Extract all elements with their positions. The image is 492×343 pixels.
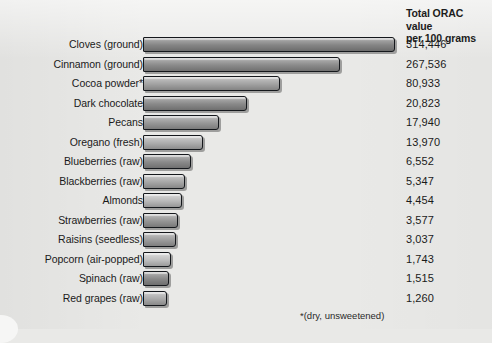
category-label: Pecans <box>108 114 143 131</box>
chart-row: Blackberries (raw)5,347 <box>0 173 492 190</box>
category-label: Cinnamon (ground) <box>53 56 143 73</box>
bar <box>143 232 176 247</box>
chart-row: Oregano (fresh)13,970 <box>0 134 492 151</box>
bar <box>143 252 171 267</box>
bar <box>143 76 280 91</box>
value-label: 1,260 <box>406 290 434 307</box>
bar-container <box>143 135 203 150</box>
bar-container <box>143 291 167 306</box>
value-label: 17,940 <box>406 114 440 131</box>
value-label: 314,446 <box>406 36 446 53</box>
bar-container <box>143 271 169 286</box>
chart-row: Blueberries (raw)6,552 <box>0 153 492 170</box>
bar-container <box>143 232 176 247</box>
value-label: 5,347 <box>406 173 434 190</box>
bar <box>143 291 167 306</box>
bar <box>143 193 182 208</box>
chart-row: Strawberries (raw)3,577 <box>0 212 492 229</box>
category-label: Blueberries (raw) <box>64 153 143 170</box>
bar <box>143 96 247 111</box>
bar <box>143 271 169 286</box>
category-label: Dark chocolate <box>74 95 143 112</box>
chart-row: Cocoa powder*80,933 <box>0 75 492 92</box>
bar <box>143 57 340 72</box>
value-label: 1,743 <box>406 251 434 268</box>
value-label: 3,577 <box>406 212 434 229</box>
bar-container <box>143 57 340 72</box>
bar <box>143 213 178 228</box>
chart-row: Cloves (ground)314,446 <box>0 36 492 53</box>
category-label: Cloves (ground) <box>69 36 143 53</box>
category-label: Strawberries (raw) <box>58 212 143 229</box>
bar-container <box>143 193 182 208</box>
chart-row: Dark chocolate20,823 <box>0 95 492 112</box>
footnote: *(dry, unsweetened) <box>300 310 384 321</box>
value-label: 20,823 <box>406 95 440 112</box>
category-label: Raisins (seedless) <box>58 231 143 248</box>
category-label: Oregano (fresh) <box>70 134 143 151</box>
bar <box>143 37 395 52</box>
bar-container <box>143 115 219 130</box>
value-label: 13,970 <box>406 134 440 151</box>
bar-container <box>143 37 395 52</box>
chart-row: Spinach (raw)1,515 <box>0 270 492 287</box>
category-label: Almonds <box>102 192 143 209</box>
bar-container <box>143 174 185 189</box>
bar <box>143 174 185 189</box>
value-label: 267,536 <box>406 56 446 73</box>
bar <box>143 154 191 169</box>
bar-container <box>143 252 171 267</box>
category-label: Red grapes (raw) <box>63 290 143 307</box>
chart-row: Cinnamon (ground)267,536 <box>0 56 492 73</box>
category-label: Spinach (raw) <box>79 270 143 287</box>
bar-container <box>143 213 178 228</box>
value-label: 3,037 <box>406 231 434 248</box>
chart-row: Raisins (seedless)3,037 <box>0 231 492 248</box>
bar <box>143 135 203 150</box>
chart-row: Pecans17,940 <box>0 114 492 131</box>
value-label: 6,552 <box>406 153 434 170</box>
chart-row: Popcorn (air-popped)1,743 <box>0 251 492 268</box>
value-label: 80,933 <box>406 75 440 92</box>
chart-row: Red grapes (raw)1,260 <box>0 290 492 307</box>
bar-container <box>143 96 247 111</box>
value-label: 1,515 <box>406 270 434 287</box>
chart-row: Almonds4,454 <box>0 192 492 209</box>
category-label: Cocoa powder* <box>72 75 143 92</box>
bar <box>143 115 219 130</box>
bar-container <box>143 154 191 169</box>
value-label: 4,454 <box>406 192 434 209</box>
category-label: Blackberries (raw) <box>59 173 143 190</box>
bar-container <box>143 76 280 91</box>
category-label: Popcorn (air-popped) <box>45 251 143 268</box>
